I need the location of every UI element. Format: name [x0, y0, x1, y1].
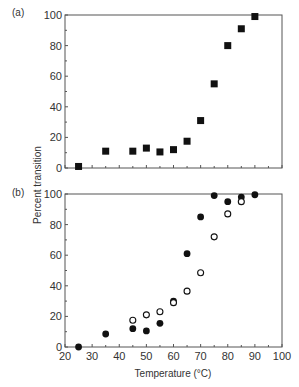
- data-point-filled-circle: [184, 250, 191, 257]
- x-tick-label: 70: [195, 350, 207, 362]
- data-point-filled-circle: [197, 214, 204, 221]
- x-tick-label: 100: [273, 350, 291, 362]
- y-axis-title: Percent transition: [32, 146, 43, 224]
- x-tick-label: 40: [113, 350, 125, 362]
- x-tick-label: 80: [222, 350, 234, 362]
- data-point-square: [211, 80, 218, 87]
- data-point-square: [251, 13, 258, 20]
- y-tick-label: 20: [50, 131, 62, 143]
- data-point-square: [156, 148, 163, 155]
- panel-b-plot: 0204060801002030405060708090100: [44, 188, 292, 362]
- data-point-open-circle: [211, 234, 217, 240]
- data-point-filled-circle: [129, 325, 136, 332]
- data-point-filled-circle: [224, 198, 231, 205]
- data-point-square: [102, 148, 109, 155]
- y-tick-label: 20: [50, 310, 62, 322]
- plot-frame: [65, 194, 282, 347]
- data-point-filled-circle: [75, 344, 82, 351]
- data-point-open-circle: [157, 309, 163, 315]
- data-point-filled-circle: [102, 331, 109, 338]
- y-tick-label: 40: [50, 101, 62, 113]
- data-point-filled-circle: [251, 191, 258, 198]
- panel-a-plot: 020406080100: [44, 9, 282, 174]
- y-tick-label: 80: [50, 40, 62, 52]
- data-point-open-circle: [143, 312, 149, 318]
- data-point-open-circle: [225, 211, 231, 217]
- data-point-square: [184, 138, 191, 145]
- y-tick-label: 60: [50, 249, 62, 261]
- plot-frame: [65, 15, 282, 168]
- data-point-square: [170, 146, 177, 153]
- data-point-square: [143, 145, 150, 152]
- x-axis-title: Temperature (°C): [135, 368, 212, 379]
- x-tick-label: 20: [59, 350, 71, 362]
- y-tick-label: 60: [50, 70, 62, 82]
- data-point-filled-circle: [211, 192, 218, 199]
- data-point-filled-circle: [143, 328, 150, 335]
- data-point-square: [238, 25, 245, 32]
- y-tick-label: 100: [44, 188, 62, 200]
- data-point-square: [129, 148, 136, 155]
- y-tick-label: 80: [50, 219, 62, 231]
- data-point-open-circle: [130, 317, 136, 323]
- x-tick-label: 50: [140, 350, 152, 362]
- x-tick-label: 60: [167, 350, 179, 362]
- y-tick-label: 0: [56, 162, 62, 174]
- figure: (a) (b) Percent transition Temperature (…: [0, 0, 299, 387]
- data-point-filled-circle: [157, 320, 164, 327]
- data-point-open-circle: [238, 199, 244, 205]
- data-point-open-circle: [184, 288, 190, 294]
- data-point-square: [75, 163, 82, 170]
- panel-a-label: (a): [12, 7, 24, 18]
- panel-b-label: (b): [12, 187, 24, 198]
- data-point-square: [197, 117, 204, 124]
- data-point-square: [224, 42, 231, 49]
- x-tick-label: 30: [86, 350, 98, 362]
- data-point-open-circle: [198, 270, 204, 276]
- data-point-open-circle: [171, 300, 177, 306]
- y-tick-label: 40: [50, 280, 62, 292]
- y-tick-label: 100: [44, 9, 62, 21]
- x-tick-label: 90: [249, 350, 261, 362]
